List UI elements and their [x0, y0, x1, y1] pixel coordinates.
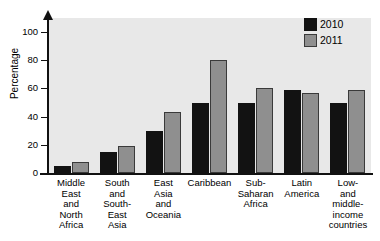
legend-swatch-2010: [304, 18, 317, 31]
x-axis-label: EastAsiaandOceania: [140, 178, 186, 220]
y-axis-tick-100: [41, 32, 48, 33]
bar-2010: [54, 166, 71, 173]
bar-2011: [302, 93, 319, 173]
y-axis-tick-80: [41, 60, 48, 61]
bar-group: [279, 90, 325, 173]
legend-label-2011: 2011: [320, 35, 343, 46]
bar-2010: [192, 103, 209, 174]
y-axis-tick-40: [41, 117, 48, 118]
bar-group: [325, 90, 371, 173]
x-axis-label: Low-andmiddle-incomecountries: [325, 178, 371, 231]
bar-group: [94, 146, 140, 173]
bar-2011: [210, 60, 227, 173]
bar-2011: [256, 88, 273, 173]
legend-item-2010[interactable]: 2010: [304, 18, 343, 31]
legend-label-2010: 2010: [320, 19, 343, 30]
bar-2010: [238, 103, 255, 174]
x-axis-label: Sub-SaharanAfrica: [233, 178, 279, 210]
y-axis-tick-label-20: 20: [14, 140, 38, 150]
bar-group: [233, 88, 279, 173]
legend-swatch-2011: [304, 34, 317, 47]
bar-2011: [348, 90, 365, 173]
bar-2010: [284, 90, 301, 173]
y-axis-tick-label-40: 40: [14, 112, 38, 122]
bar-2010: [100, 152, 117, 173]
y-axis-tick-0: [41, 173, 48, 174]
legend-item-2011[interactable]: 2011: [304, 34, 343, 47]
chart-legend: 20102011: [304, 18, 343, 47]
bar-2010: [330, 103, 347, 174]
x-axis-label: Caribbean: [186, 178, 232, 189]
bar-group: [140, 112, 186, 173]
bar-2011: [164, 112, 181, 173]
y-axis-tick-label-0: 0: [14, 168, 38, 178]
y-axis-tick-20: [41, 145, 48, 146]
x-axis-label: LatinAmerica: [279, 178, 325, 199]
bar-chart-screenshot: Percentage 020406080100 MiddleEastandNor…: [0, 0, 380, 241]
y-axis-tick-60: [41, 88, 48, 89]
bar-2011: [72, 162, 89, 173]
x-axis-label: SouthandSouth-EastAsia: [94, 178, 140, 231]
bar-group: [186, 60, 232, 173]
y-axis-tick-label-100: 100: [14, 27, 38, 37]
x-axis-label: MiddleEastandNorthAfrica: [48, 178, 94, 231]
y-axis-tick-label-60: 60: [14, 83, 38, 93]
y-axis-tick-label-80: 80: [14, 55, 38, 65]
bar-group: [48, 162, 94, 173]
bar-2010: [146, 131, 163, 173]
bar-2011: [118, 146, 135, 173]
